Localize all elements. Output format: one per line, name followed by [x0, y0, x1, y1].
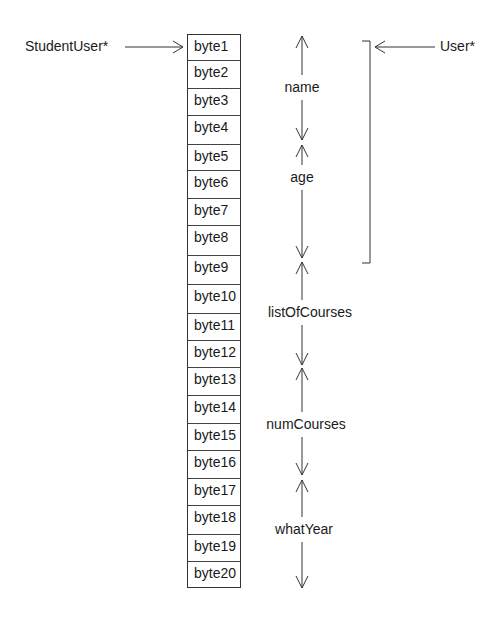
byte-label: byte14 [194, 399, 236, 415]
byte-cell: byte13 [188, 368, 240, 396]
byte-label: byte20 [194, 565, 236, 581]
byte-cell: byte16 [188, 451, 240, 479]
user-bracket-icon [362, 41, 370, 263]
byte-label: byte7 [194, 202, 228, 218]
byte-label: byte18 [194, 509, 236, 525]
byte-cell: byte10 [188, 285, 240, 314]
byte-cell: byte20 [188, 562, 240, 587]
byte-label: byte4 [194, 119, 228, 135]
byte-label: byte6 [194, 174, 228, 190]
byte-cell: byte11 [188, 314, 240, 341]
field-label-num-courses: numCourses [266, 414, 345, 434]
byte-cell: byte3 [188, 89, 240, 116]
field-label-age: age [290, 167, 313, 187]
byte-label: byte2 [194, 64, 228, 80]
user-arrow-icon [375, 41, 435, 53]
byte-cell: byte4 [188, 116, 240, 145]
byte-label: byte9 [194, 259, 228, 275]
byte-column: byte1 byte2 byte3 byte4 byte5 byte6 byte… [187, 34, 241, 588]
diagram-lines [0, 0, 501, 620]
byte-label: byte3 [194, 92, 228, 108]
byte-label: byte15 [194, 427, 236, 443]
byte-label: byte11 [194, 317, 235, 333]
byte-cell: byte18 [188, 506, 240, 535]
byte-cell: byte12 [188, 341, 240, 368]
byte-cell: byte2 [188, 61, 240, 89]
byte-cell: byte9 [188, 256, 240, 285]
byte-cell: byte7 [188, 199, 240, 226]
byte-cell: byte8 [188, 226, 240, 256]
byte-label: byte12 [194, 344, 236, 360]
byte-label: byte17 [194, 482, 236, 498]
memory-layout-diagram: StudentUser* [0, 0, 501, 620]
byte-cell: byte17 [188, 479, 240, 506]
field-label-name: name [284, 77, 319, 97]
byte-label: byte19 [194, 538, 236, 554]
byte-label: byte1 [194, 38, 228, 54]
student-user-arrow-icon [125, 41, 183, 53]
byte-label: byte13 [194, 371, 236, 387]
byte-cell: byte5 [188, 145, 240, 171]
byte-label: byte5 [194, 148, 228, 164]
user-pointer-label: User* [440, 38, 475, 54]
byte-label: byte10 [194, 288, 236, 304]
byte-cell: byte15 [188, 424, 240, 451]
byte-label: byte16 [194, 454, 236, 470]
byte-cell: byte14 [188, 396, 240, 424]
field-label-what-year: whatYear [275, 519, 333, 539]
byte-cell: byte6 [188, 171, 240, 199]
byte-cell: byte19 [188, 535, 240, 562]
byte-cell: byte1 [188, 35, 240, 61]
field-label-list-of-courses: listOfCourses [268, 302, 352, 322]
byte-label: byte8 [194, 229, 228, 245]
age-span-arrow-icon [296, 145, 308, 258]
